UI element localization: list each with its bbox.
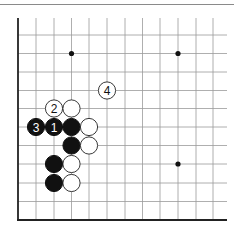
star-point-icon — [175, 161, 180, 166]
white-stone-icon — [80, 118, 97, 135]
white-stone — [63, 174, 80, 191]
black-stone — [45, 155, 62, 172]
white-stone-icon — [63, 155, 80, 172]
white-stone-icon — [63, 174, 80, 191]
move-number-label: 1 — [51, 121, 58, 135]
white-stone: 2 — [45, 100, 62, 117]
move-number-label: 4 — [104, 84, 111, 98]
black-stone: 3 — [27, 118, 44, 135]
black-stone — [63, 137, 80, 154]
black-stone-icon — [45, 155, 62, 172]
white-stone — [80, 118, 97, 135]
star-point-icon — [175, 51, 180, 56]
white-stone: 4 — [98, 82, 115, 99]
white-stone — [80, 137, 97, 154]
board-grid — [17, 18, 227, 221]
star-point-icon — [69, 51, 74, 56]
move-number-label: 2 — [51, 102, 58, 116]
black-stone — [63, 118, 80, 135]
black-stone-icon — [45, 174, 62, 191]
black-stone: 1 — [45, 118, 62, 135]
black-stone-icon — [63, 137, 80, 154]
go-board: 4231 — [0, 0, 235, 233]
white-stone-icon — [63, 100, 80, 117]
white-stone — [63, 155, 80, 172]
black-stone — [45, 174, 62, 191]
move-number-label: 3 — [33, 121, 40, 135]
white-stone — [63, 100, 80, 117]
black-stone-icon — [63, 118, 80, 135]
white-stone-icon — [80, 137, 97, 154]
